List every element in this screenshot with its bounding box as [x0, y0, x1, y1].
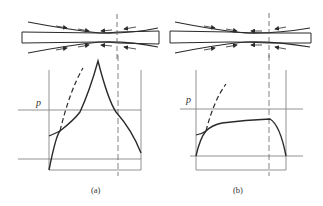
- arrow-icon: [275, 47, 286, 49]
- panel-a: p (a): [18, 14, 159, 195]
- arrow-icon: [275, 27, 286, 29]
- arrow-icon: [101, 45, 112, 46]
- arrow-icon: [204, 48, 215, 50]
- figure-canvas: p (a): [0, 0, 323, 206]
- lower-roll-b: [175, 42, 310, 53]
- arrow-icon: [124, 47, 136, 49]
- panel-b: p (b): [170, 13, 311, 195]
- pressure-chart-a: p (a): [18, 55, 141, 195]
- arrow-icon: [56, 48, 67, 50]
- caption-a: (a): [91, 185, 101, 195]
- upper-roll-a: [28, 22, 158, 33]
- axis-label-p-a: p: [35, 97, 41, 108]
- pressure-curve-b: [196, 119, 286, 156]
- strip-schematic-a: [22, 14, 159, 60]
- caption-b: (b): [233, 185, 243, 195]
- arrow-icon: [226, 45, 237, 47]
- lower-roll-a: [28, 42, 158, 53]
- pressure-chart-b: p (b): [180, 55, 303, 195]
- arrow-icon: [124, 27, 136, 29]
- axis-label-p-b: p: [185, 94, 191, 105]
- pressure-curve-a: [49, 61, 141, 170]
- arrow-icon: [101, 30, 112, 31]
- arrow-icon: [78, 45, 89, 47]
- strip-schematic-b: [170, 13, 311, 60]
- strip-a: [22, 31, 159, 44]
